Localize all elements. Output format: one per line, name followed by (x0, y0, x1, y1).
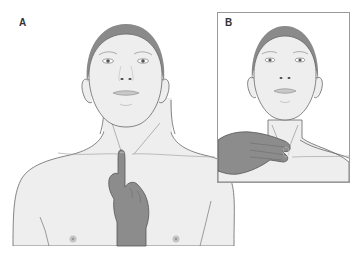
panel-b-inset (218, 13, 350, 183)
panel-label-b: B (225, 17, 232, 28)
panel-label-a: A (19, 17, 26, 28)
illustration-canvas (0, 0, 362, 259)
medical-illustration: A B (0, 0, 362, 259)
panel-a-figure (10, 24, 238, 259)
head (89, 34, 162, 127)
